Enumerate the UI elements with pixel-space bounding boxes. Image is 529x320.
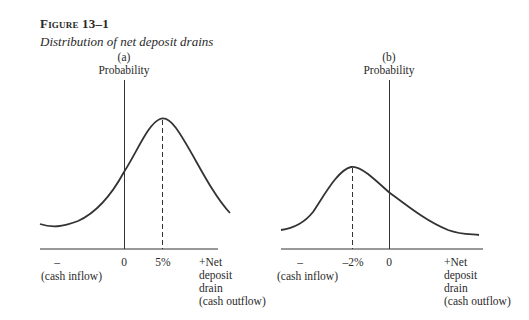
panel-b-x-axis-label-4: (cash outflow)	[444, 295, 511, 308]
panel-b-x-axis-label-2: deposit	[444, 269, 477, 282]
panel-b-minus-label: –	[297, 256, 303, 269]
panel-a-minus-label: –	[54, 256, 60, 269]
panel-a-x-axis-label-4: (cash outflow)	[199, 295, 266, 308]
panel-a-plot	[40, 80, 230, 249]
panel-a-tick-5pct: 5%	[155, 256, 170, 269]
panel-b-title: (b)	[382, 51, 395, 64]
panel-b-tick-zero: 0	[386, 256, 392, 269]
panel-b-cash-inflow-label: (cash inflow)	[277, 270, 338, 283]
panel-b-x-axis-label-1: +Net	[444, 256, 467, 269]
panel-b-tick-minus-2pct: –2%	[342, 256, 363, 269]
panel-a-tick-zero: 0	[121, 256, 127, 269]
panel-a-distribution-curve	[40, 118, 230, 226]
panel-b-distribution-curve	[281, 167, 479, 235]
panel-b-x-axis-label-3: drain	[444, 282, 468, 295]
panel-a-x-axis-label-3: drain	[199, 282, 223, 295]
panel-b-plot	[281, 80, 483, 249]
panel-a-x-axis-label-2: deposit	[199, 269, 232, 282]
panel-a-cash-inflow-label: (cash inflow)	[41, 270, 102, 283]
panel-a-y-axis-label: Probability	[98, 64, 149, 77]
panel-a-x-axis-label-1: +Net	[199, 256, 222, 269]
panel-a-title: (a)	[118, 51, 131, 64]
panel-b-y-axis-label: Probability	[363, 64, 414, 77]
